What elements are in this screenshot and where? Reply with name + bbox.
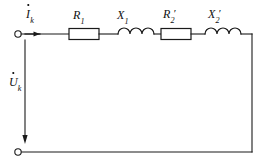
label-r2: R2′	[163, 8, 177, 24]
circuit-schematic-svg	[0, 0, 265, 165]
label-x1-symbol: X	[117, 8, 124, 22]
label-x2: X2′	[208, 8, 222, 24]
terminal-bottom-left	[15, 149, 21, 155]
resistor-r2	[161, 29, 191, 40]
label-voltage-subscript: k	[18, 84, 22, 93]
circuit-diagram-canvas: Ik Uk R1 X1 R2′ X2′	[0, 0, 265, 165]
label-r2-symbol: R	[163, 7, 170, 21]
label-x1: X1	[117, 9, 128, 25]
voltage-arrow	[22, 40, 27, 144]
label-r1-symbol: R	[73, 8, 80, 22]
label-current-subscript: k	[30, 16, 34, 25]
terminal-top-left	[15, 31, 21, 37]
label-x2-prime: ′	[219, 7, 222, 19]
label-x2-symbol: X	[208, 7, 215, 21]
label-current: Ik	[26, 8, 34, 24]
resistor-r1	[69, 29, 99, 40]
current-arrow	[25, 32, 40, 37]
label-voltage-symbol: U	[9, 75, 18, 89]
label-voltage: Uk	[9, 76, 21, 92]
overdot-voltage	[13, 72, 15, 74]
label-r1-subscript: 1	[81, 17, 85, 26]
overdot-current	[27, 4, 29, 6]
inductor-x1	[118, 28, 154, 34]
inductor-x2	[205, 28, 241, 34]
label-r1: R1	[73, 9, 84, 25]
label-x1-subscript: 1	[125, 17, 129, 26]
label-r2-prime: ′	[174, 7, 177, 19]
